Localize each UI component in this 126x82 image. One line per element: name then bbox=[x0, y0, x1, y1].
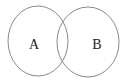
set-a-label: A bbox=[29, 37, 40, 52]
venn-svg: A B bbox=[0, 0, 126, 82]
set-b-label: B bbox=[92, 37, 101, 52]
venn-diagram: A B bbox=[0, 0, 126, 82]
set-b-circle bbox=[57, 7, 119, 77]
